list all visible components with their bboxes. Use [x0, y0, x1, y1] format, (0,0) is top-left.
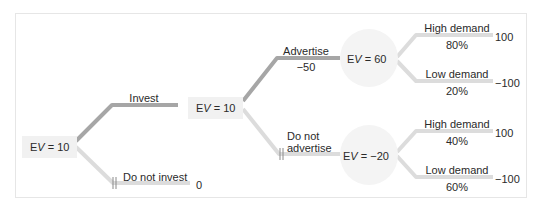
- decision-node-root: EV = 10: [22, 136, 77, 158]
- invest-label: Invest: [129, 92, 158, 104]
- noadv-low-prob: 60%: [446, 181, 468, 193]
- advertise-cost: −50: [297, 61, 316, 73]
- adv-low-prob: 20%: [446, 85, 468, 97]
- noadv-high-prob: 40%: [446, 135, 468, 147]
- noadv-low-payoff: −100: [495, 173, 520, 185]
- branch-advertise: [243, 58, 340, 101]
- adv-high-prob: 80%: [446, 39, 468, 51]
- adv-low-label: Low demand: [426, 68, 489, 80]
- decision-node-invest: EV = 10: [188, 97, 243, 119]
- not-advertise-node-ev-label: EV = −20: [343, 150, 389, 162]
- do-not-advertise-label-1: Do not: [287, 130, 319, 142]
- advertise-node-ev-label: EV = 60: [347, 53, 386, 65]
- invest-node-ev-label: EV = 10: [196, 102, 235, 114]
- adv-high-payoff: 100: [495, 31, 513, 43]
- adv-low-payoff: −100: [495, 77, 520, 89]
- noadv-high-payoff: 100: [495, 127, 513, 139]
- advertise-label: Advertise: [283, 45, 329, 57]
- do-not-advertise-label-2: advertise: [287, 142, 332, 154]
- noadv-high-label: High demand: [424, 118, 489, 130]
- branch-invest: [76, 105, 178, 141]
- noadv-low-label: Low demand: [426, 164, 489, 176]
- adv-high-label: High demand: [424, 22, 489, 34]
- do-not-invest-payoff: 0: [196, 179, 202, 191]
- root-ev-label: EV = 10: [30, 141, 69, 153]
- do-not-invest-label: Do not invest: [123, 171, 187, 183]
